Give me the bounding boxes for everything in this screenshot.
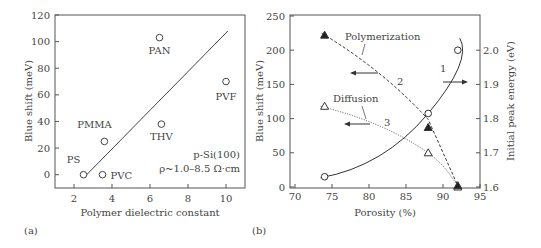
b-y2-tick-label: 2.0 [483,45,499,56]
b-x-tick-label: 80 [363,191,376,202]
b-x-tick-label: 90 [437,191,450,202]
a-x-tick-label: 10 [220,193,233,204]
a-x-tick-label: 8 [185,193,191,204]
b-y-tick-label: 200 [266,45,285,56]
a-annotation-resistivity: ρ~1.0–8.5 Ω·cm [159,163,240,174]
panel-a: 020406080100120 246810 PSPVCPMMAPANTHVPV… [23,10,245,237]
b-leader-polymerization [362,44,365,55]
b-markers [321,31,462,190]
b-x-axis-label: Porosity (%) [354,207,416,218]
b-x-tick-label: 85 [400,191,413,202]
a-point-label: PVC [111,170,133,181]
marker-open-triangle [424,149,432,156]
a-data-point [101,138,108,145]
a-x-tick-label: 6 [147,193,153,204]
b-curves [321,33,463,187]
a-y-axis-label: Blue shift (meV) [23,60,34,142]
a-data-point [99,171,106,178]
a-x-axis-label: Polymer dielectric constant [80,207,219,218]
a-x-tick-label: 4 [109,193,115,204]
b-y2-tick-label: 1.8 [483,113,499,124]
panel-label-b: (b) [252,225,266,236]
figure: 020406080100120 246810 PSPVCPMMAPANTHVPV… [0,0,541,248]
a-x-tick-label: 2 [71,193,77,204]
b-y2-tick-label: 1.9 [483,79,499,90]
b-x-tick-label: 75 [326,191,339,202]
a-x-axis-ticks: 246810 [71,184,233,204]
marker-open-circle [425,110,432,117]
curve-2 [322,33,458,185]
arrow-left-icon [344,122,370,127]
a-y-tick-label: 80 [37,63,50,74]
marker-filled-triangle [321,31,329,38]
a-data-point [156,34,163,41]
b-label-diffusion: Diffusion [333,93,379,104]
a-y-tick-label: 40 [37,116,50,127]
a-point-label: THV [150,131,173,142]
a-y-tick-label: 0 [44,169,50,180]
a-data-point [158,121,165,128]
a-point-label: PAN [149,45,171,56]
b-y-tick-label: 100 [266,113,285,124]
curve-1 [321,38,463,178]
a-y-tick-label: 100 [31,36,50,47]
marker-open-circle [455,47,462,54]
a-annotation-substrate: p-Si(100) [193,149,240,160]
b-curve-label-2: 2 [397,76,403,87]
b-curve-label-1: 1 [440,63,446,74]
b-y2-tick-label: 1.7 [483,147,499,158]
b-label-polymerization: Polymerization [345,31,421,42]
arrow-left-icon [350,71,378,76]
b-y-axis-label: Blue shift (meV) [254,60,265,142]
a-y-tick-label: 60 [37,89,50,100]
arrow-right-icon [443,80,468,85]
b-y-tick-label: 150 [266,79,285,90]
a-point-label: PS [67,154,81,165]
b-x-tick-label: 95 [474,191,487,202]
a-point-label: PVF [216,91,237,102]
b-x-tick-label: 70 [289,191,302,202]
b-y-tick-label: 50 [272,147,285,158]
marker-filled-triangle [424,123,432,130]
a-y-tick-label: 20 [37,143,50,154]
b-leader-diffusion [362,106,366,119]
a-data-point [80,171,87,178]
panel-b: 050100150200250 1.61.71.81.92.0 70758085… [252,11,516,237]
a-data-point [223,78,230,85]
a-point-label: PMMA [77,119,112,130]
b-y-tick-label: 0 [279,182,285,193]
b-y-tick-label: 250 [266,11,285,22]
marker-open-triangle [321,102,329,109]
a-y-tick-label: 120 [31,10,50,21]
b-y2-axis-label: Initial peak energy (eV) [505,41,516,161]
b-curve-label-3: 3 [384,117,390,128]
panel-label-a: (a) [24,225,38,236]
b-y2-axis-ticks: 1.61.71.81.92.0 [476,45,499,193]
marker-open-circle [321,173,328,180]
